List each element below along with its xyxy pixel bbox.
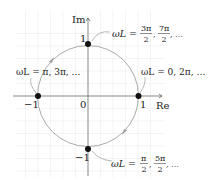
arrow-icon-lower-right bbox=[122, 129, 127, 135]
arrow-icon-upper-left bbox=[49, 57, 54, 63]
y-axis-label: Im bbox=[72, 14, 86, 25]
svg-text:2: 2 bbox=[144, 35, 149, 44]
svg-text:, …: , … bbox=[170, 30, 183, 39]
svg-text:,: , bbox=[153, 30, 156, 39]
svg-text:ωL =: ωL = bbox=[111, 158, 136, 169]
tick-x-neg: −1 bbox=[24, 99, 39, 110]
unit-circle-diagram: Im Re 0 1 1 −1 −1 ωL = 3π 2 , 7π 2 , … ω… bbox=[0, 0, 213, 186]
x-axis-label: Re bbox=[156, 100, 170, 111]
tick-y-neg: −1 bbox=[75, 152, 90, 163]
svg-text:, …: , … bbox=[166, 160, 179, 169]
tick-x-pos: 1 bbox=[140, 99, 146, 110]
label-left: ωL = π, 3π, … bbox=[16, 67, 81, 77]
svg-text:ωL =: ωL = bbox=[112, 28, 137, 39]
svg-text:,: , bbox=[149, 160, 152, 169]
svg-text:7π: 7π bbox=[159, 24, 169, 33]
svg-text:2: 2 bbox=[162, 35, 167, 44]
svg-text:3π: 3π bbox=[141, 24, 151, 33]
svg-text:π: π bbox=[141, 154, 146, 163]
label-top: ωL = 3π 2 , 7π 2 , … bbox=[112, 24, 183, 44]
svg-text:2: 2 bbox=[158, 165, 163, 174]
tick-y-pos: 1 bbox=[80, 33, 86, 44]
origin-label: 0 bbox=[80, 99, 86, 110]
svg-text:2: 2 bbox=[142, 165, 147, 174]
label-right: ωL = 0, 2π, … bbox=[141, 67, 205, 77]
svg-text:5π: 5π bbox=[155, 154, 165, 163]
